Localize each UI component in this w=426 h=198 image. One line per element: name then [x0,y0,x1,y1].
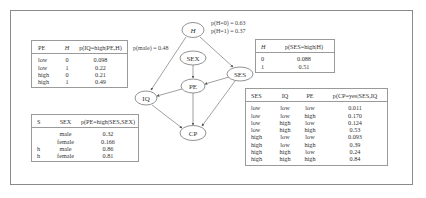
cell: 0.093 [323,133,387,140]
table-iq-cpt: PE H p(IQ=high|PE,H) low00.098 low10.22 … [31,40,128,88]
cell: high [251,148,273,155]
cell: female [54,152,77,159]
table-row: lowlowhigh0.170 [246,112,387,119]
table-row: 00.088 [256,55,334,62]
col-header: SEX [54,118,77,125]
cell: high [38,71,60,78]
cell: high [297,126,323,133]
cell: 0 [60,71,74,78]
cell: 0.21 [74,71,127,78]
cell: high [273,148,297,155]
cell: 0.098 [74,56,127,63]
cell: low [273,104,297,111]
cell: high [273,126,297,133]
cell: low [251,119,273,126]
table-row: hmale0.86 [32,145,138,152]
col-header: p(CP=yes|SES,IQ [323,92,387,99]
cell [37,138,54,145]
table-row: high00.21 [32,71,127,78]
table-row: male0.32 [32,130,138,137]
p-h1-annotation: p(H=1) = 0.37 [211,28,246,34]
node-sex-label: SEX [186,55,199,63]
table-row: highhighlow0.24 [246,148,387,155]
cell: 0.24 [323,148,387,155]
cell: 0.32 [77,130,139,137]
col-header: p(IQ=high|PE,H) [74,44,127,51]
col-header: H [261,43,275,50]
node-h-label: H [189,27,196,35]
cell: 0.86 [77,145,139,152]
p-male-annotation: p(male) = 0.48 [133,45,169,51]
cell: 0.166 [77,138,139,145]
table-row: lowlowlow0.011 [246,104,387,111]
cell: low [251,112,273,119]
table-row: hfemale0.81 [32,152,138,159]
edge-ses-pe [205,77,229,84]
cell: low [297,119,323,126]
edge-pe-iq [157,89,182,96]
col-header: H [60,44,74,51]
col-header: PE [297,92,323,99]
cell: high [251,133,273,140]
cell: female [54,138,77,145]
cell: 0.170 [323,112,387,119]
table-row: female0.166 [32,138,138,145]
node-iq-label: IQ [142,95,149,103]
cell: 1 [60,78,74,85]
cell: high [297,112,323,119]
col-header: S [37,118,54,125]
table-row: low10.22 [32,64,127,71]
cell: 0.39 [323,141,387,148]
table-row: lowhighhigh0.53 [246,126,387,133]
cell: low [297,133,323,140]
cell: 0.49 [74,78,127,85]
table-row: highlowlow0.093 [246,133,387,140]
cell: 1 [261,63,275,70]
cell: low [251,126,273,133]
col-header: SES [251,92,273,99]
cell: 0 [60,56,74,63]
edge-iq-cp [152,105,182,128]
cell: 1 [60,64,74,71]
node-pe-label: PE [189,83,197,91]
col-header: PE [38,44,60,51]
cell: high [297,141,323,148]
cell: high [297,155,323,162]
cell: high [273,119,297,126]
cell: low [273,133,297,140]
cell: high [273,155,297,162]
cell: 0.53 [323,126,387,133]
col-header: p(SES=high|H) [275,43,333,50]
node-cp-label: CP [189,130,198,138]
cell: low [273,112,297,119]
cell: low [297,104,323,111]
table-row: lowhighlow0.124 [246,119,387,126]
table-row: 10.51 [256,63,334,70]
cell: h [37,145,54,152]
table-row: highhighhigh0.84 [246,155,387,162]
cell: low [38,56,60,63]
cell: 0.81 [77,152,139,159]
table-ses-cpt: H p(SES=high|H) 00.088 10.51 [255,39,335,73]
cell: low [273,141,297,148]
p-h0-annotation: p(H=0) = 0.63 [211,20,246,26]
cell: 0.51 [275,63,333,70]
cell: 0 [261,55,275,62]
cell: h [37,152,54,159]
cell [37,130,54,137]
node-ses-label: SES [234,71,246,79]
table-pe-cpt: S SEX p(PE=high|SES,SEX) male0.32 female… [31,114,139,162]
col-header: IQ [273,92,297,99]
cell: 0.22 [74,64,127,71]
col-header: p(PE=high|SES,SEX) [77,118,139,125]
cell: high [38,78,60,85]
cell: male [54,130,77,137]
table-cp-cpt: SES IQ PE p(CP=yes|SES,IQ lowlowlow0.011… [245,88,388,166]
table-row: low00.098 [32,56,127,63]
cell: male [54,145,77,152]
edge-h-ses [200,37,233,67]
edge-ses-cp [202,81,235,126]
cell: 0.011 [323,104,387,111]
table-row: high10.49 [32,78,127,85]
table-row: highlowhigh0.39 [246,141,387,148]
